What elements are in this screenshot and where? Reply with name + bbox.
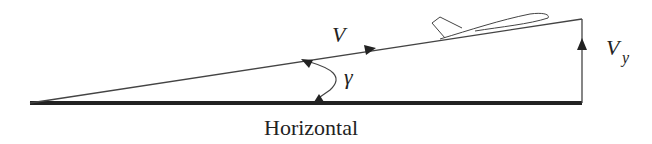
vertical-velocity-arrow-icon: [577, 38, 587, 50]
vertical-velocity-label: V: [606, 35, 622, 60]
angle-label: γ: [344, 64, 354, 89]
horizontal-label: Horizontal: [264, 115, 358, 140]
angle-arc: [310, 62, 336, 97]
vertical-velocity-subscript: y: [620, 49, 630, 67]
velocity-label: V: [332, 22, 348, 47]
climb-diagram: V γ V y Horizontal: [0, 0, 652, 144]
angle-arrow-top-icon: [301, 59, 313, 68]
